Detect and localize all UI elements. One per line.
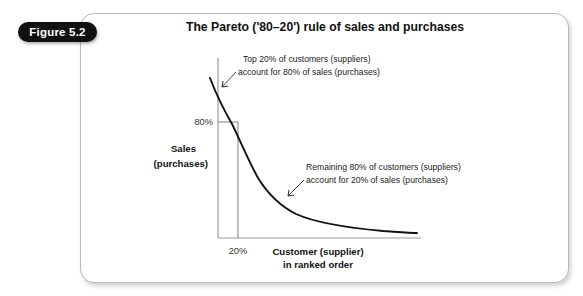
- chart-title: The Pareto ('80–20') rule of sales and p…: [100, 20, 550, 34]
- x-tick-label-20: 20%: [229, 246, 248, 256]
- annotation-remaining-80-line1: Remaining 80% of customers (suppliers): [306, 162, 461, 172]
- annotation-top-20-line1: Top 20% of customers (suppliers): [243, 54, 371, 64]
- annotation-remaining-80-arrow: [288, 180, 304, 196]
- x-axis-title-line1: Customer (supplier): [272, 246, 363, 257]
- annotation-top-20-arrow: [222, 72, 236, 87]
- annotation-remaining-80-line2: account for 20% of sales (purchases): [306, 175, 448, 185]
- pareto-curve: [210, 78, 417, 233]
- x-axis-title-line2: in ranked order: [283, 259, 353, 270]
- y-axis-title-line1: Sales: [171, 143, 196, 154]
- y-axis-title-line2: (purchases): [154, 158, 208, 169]
- figure-number-label: Figure 5.2: [29, 26, 85, 38]
- y-tick-label-80: 80%: [194, 117, 213, 127]
- annotation-top-20-line2: account for 80% of sales (purchases): [238, 67, 380, 77]
- figure-number-tag: Figure 5.2: [18, 22, 97, 42]
- pareto-chart: 80% 20% Sales (purchases) Customer (supp…: [0, 0, 583, 296]
